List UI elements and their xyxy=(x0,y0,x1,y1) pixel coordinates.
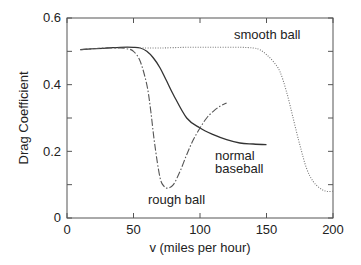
y-tick-0.6: 0.6 xyxy=(43,10,61,25)
x-tick-50: 50 xyxy=(126,222,140,237)
curve-rough-ball xyxy=(80,48,226,188)
y-tick-0.2: 0.2 xyxy=(43,144,61,159)
x-tick-150: 150 xyxy=(256,222,278,237)
annotation-rough-ball: rough ball xyxy=(148,192,205,207)
x-axis-label: v (miles per hour) xyxy=(149,240,250,255)
x-tick-200: 200 xyxy=(322,222,344,237)
y-tick-0.4: 0.4 xyxy=(43,77,61,92)
annotation-normal-baseball-line2: baseball xyxy=(215,161,264,176)
y-tick-0: 0 xyxy=(54,210,61,225)
x-tick-0: 0 xyxy=(63,222,70,237)
x-tick-100: 100 xyxy=(189,222,211,237)
y-axis-label: Drag Coefficient xyxy=(16,71,31,164)
drag-coefficient-chart: 0 0.2 0.4 0.6 0 50 100 150 200 v (miles … xyxy=(0,0,361,265)
annotation-smooth-ball: smooth ball xyxy=(234,27,301,42)
curves xyxy=(80,47,333,191)
curve-normal-baseball xyxy=(80,47,266,144)
